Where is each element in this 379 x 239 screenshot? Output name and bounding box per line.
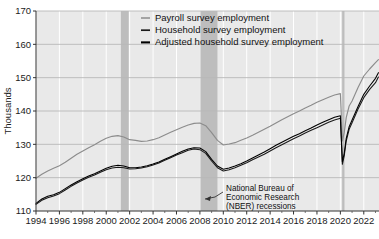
annotation-line-3: (NBER) recessions: [226, 202, 296, 211]
chart-canvas: 110120130140150160170 199419961998200020…: [0, 0, 379, 239]
ytick-label-170: 170: [15, 5, 31, 16]
xtick-label-1994: 1994: [25, 215, 46, 226]
xtick-label-2014: 2014: [260, 215, 281, 226]
employment-line-chart: 110120130140150160170 199419961998200020…: [0, 0, 379, 239]
xtick-label-2010: 2010: [213, 215, 234, 226]
legend-label-2: Adjusted household survey employment: [155, 36, 324, 47]
xtick-label-2018: 2018: [306, 215, 327, 226]
xtick-label-2012: 2012: [236, 215, 257, 226]
legend-label-1: Household survey employment: [155, 24, 286, 35]
xtick-label-2022: 2022: [353, 215, 374, 226]
legend-label-0: Payroll survey employment: [155, 12, 269, 23]
ytick-label-160: 160: [15, 39, 31, 50]
annotation-line-2: Economic Research: [226, 193, 300, 202]
xtick-label-2008: 2008: [189, 215, 210, 226]
xtick-label-2000: 2000: [96, 215, 117, 226]
xtick-label-2004: 2004: [142, 215, 163, 226]
x-axis-ticks: 1994199619982000200220042006200820102012…: [25, 211, 375, 226]
ytick-label-120: 120: [15, 172, 31, 183]
ytick-label-150: 150: [15, 72, 31, 83]
ytick-label-130: 130: [15, 139, 31, 150]
xtick-label-1996: 1996: [49, 215, 70, 226]
xtick-label-2002: 2002: [119, 215, 140, 226]
y-axis-title: Thousands: [2, 87, 13, 134]
xtick-label-2006: 2006: [166, 215, 187, 226]
y-axis-ticks: 110120130140150160170: [15, 5, 36, 216]
ytick-label-140: 140: [15, 105, 31, 116]
xtick-label-1998: 1998: [72, 215, 93, 226]
annotation-line-1: National Bureau of: [226, 184, 295, 193]
xtick-label-2016: 2016: [283, 215, 304, 226]
xtick-label-2020: 2020: [330, 215, 351, 226]
